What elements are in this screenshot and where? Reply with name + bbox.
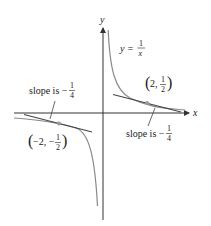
svg-text:2: 2 (161, 85, 165, 94)
leader-left (50, 101, 55, 119)
svg-text:): ) (62, 132, 67, 150)
hyperbola-diagram: y x y = 1 x ( 2, 1 2 ) ( −2, − 1 2 ) slo… (0, 0, 211, 226)
svg-text:x: x (138, 49, 143, 58)
curve-branch-negative (14, 118, 98, 206)
leader-right (148, 108, 155, 126)
svg-text:): ) (167, 74, 172, 92)
svg-text:y =: y = (119, 43, 134, 54)
curve-label: y = 1 x (119, 39, 145, 58)
slope-annotation-right: slope is − 1 4 (126, 124, 172, 143)
svg-text:slope is −: slope is − (126, 128, 165, 139)
svg-text:1: 1 (167, 124, 171, 133)
svg-text:2,: 2, (150, 78, 158, 89)
svg-text:4: 4 (167, 134, 171, 143)
point-right-label: ( 2, 1 2 ) (145, 74, 172, 94)
svg-text:slope is −: slope is − (29, 85, 68, 96)
slope-annotation-left: slope is − 1 4 (29, 81, 75, 100)
point-right (145, 101, 149, 105)
svg-text:−2, −: −2, − (33, 136, 55, 147)
svg-text:1: 1 (139, 39, 143, 48)
x-axis-label: x (192, 107, 198, 118)
svg-text:1: 1 (56, 133, 60, 142)
svg-text:1: 1 (70, 81, 74, 90)
curve-branch-positive (108, 30, 185, 110)
point-left (57, 122, 61, 126)
y-axis-label: y (99, 14, 105, 25)
svg-text:4: 4 (70, 91, 74, 100)
svg-text:2: 2 (56, 143, 60, 152)
point-left-label: ( −2, − 1 2 ) (28, 132, 67, 152)
svg-text:1: 1 (161, 75, 165, 84)
